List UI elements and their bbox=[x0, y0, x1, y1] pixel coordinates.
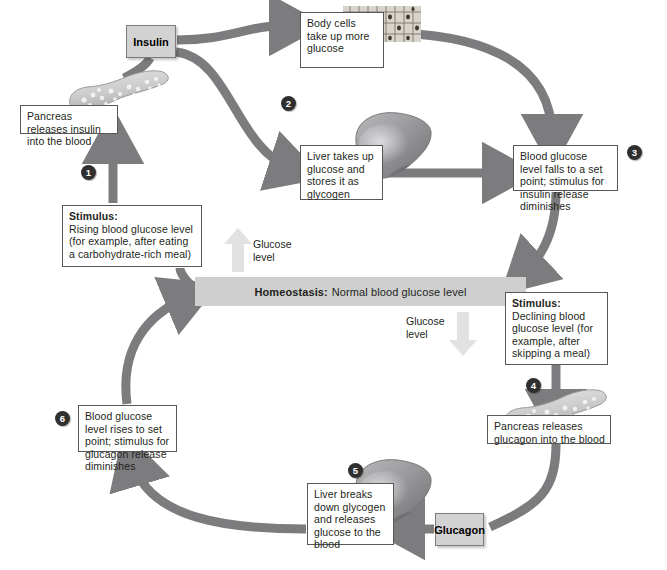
step-circle-3: 3 bbox=[627, 145, 642, 160]
glucose-down-line2: level bbox=[406, 328, 445, 341]
pancreas-releases-insulin-box[interactable]: Pancreas releases insulin into the blood bbox=[20, 105, 118, 134]
step-circle-5: 5 bbox=[348, 463, 363, 478]
stimulus-rising-box[interactable]: Stimulus: Rising blood glucose level (fo… bbox=[62, 205, 202, 267]
glucose-level-up-label: Glucose level bbox=[253, 238, 292, 263]
homeostasis-bold-label: Homeostasis: bbox=[254, 286, 327, 298]
step-circle-1: 1 bbox=[81, 165, 96, 180]
step-circle-6: 6 bbox=[55, 411, 70, 426]
glucagon-label-box[interactable]: Glucagon bbox=[435, 513, 484, 546]
stimulus-declining-text: Declining blood glucose level (for examp… bbox=[512, 310, 593, 360]
blood-glucose-falls-box[interactable]: Blood glucose level falls to a set point… bbox=[513, 145, 618, 191]
glucose-up-line1: Glucose bbox=[253, 238, 292, 251]
insulin-label-box[interactable]: Insulin bbox=[126, 25, 176, 58]
stimulus-rising-bold: Stimulus: bbox=[69, 210, 118, 222]
step-circle-2: 2 bbox=[281, 96, 296, 111]
arrow-pancreas-to-glucagon bbox=[490, 444, 556, 527]
pancreas-releases-glucagon-box[interactable]: Pancreas releases glucagon into the bloo… bbox=[487, 415, 611, 444]
arrow-insulin-to-bodycells bbox=[177, 25, 292, 40]
blood-glucose-rises-box[interactable]: Blood glucose level rises to set point; … bbox=[78, 405, 177, 452]
liver-breaks-down-glycogen-box[interactable]: Liver breaks down glycogen and releases … bbox=[307, 483, 394, 545]
homeostasis-text: Normal blood glucose level bbox=[332, 286, 467, 298]
arrow-step6-to-homeostasis bbox=[126, 297, 188, 404]
glucose-up-line2: level bbox=[253, 251, 292, 264]
stimulus-declining-bold: Stimulus: bbox=[512, 297, 561, 309]
arrow-insulin-to-liver bbox=[176, 52, 292, 168]
stimulus-declining-box[interactable]: Stimulus: Declining blood glucose level … bbox=[505, 292, 608, 365]
arrow-homeostasis-to-stimulus1 bbox=[180, 268, 196, 288]
stimulus-rising-text: Rising blood glucose level (for example,… bbox=[69, 223, 193, 260]
glucose-down-line1: Glucose bbox=[406, 315, 445, 328]
arrow-liver-to-step6 bbox=[133, 463, 306, 529]
glucose-homeostasis-diagram: Insulin Glucagon Homeostasis: Normal blo… bbox=[0, 0, 667, 570]
glucose-up-arrow-shape bbox=[224, 228, 252, 272]
homeostasis-bar: Homeostasis: Normal blood glucose level bbox=[195, 277, 526, 306]
glucose-level-down-label: Glucose level bbox=[406, 315, 445, 340]
glucose-down-arrow-shape bbox=[449, 312, 477, 356]
liver-takes-up-glucose-box[interactable]: Liver takes up glucose and stores it as … bbox=[300, 145, 383, 200]
body-cells-box[interactable]: Body cells take up more glucose bbox=[300, 12, 384, 68]
step-circle-4: 4 bbox=[526, 378, 541, 393]
